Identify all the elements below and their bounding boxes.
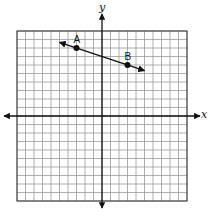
coordinate-plane — [0, 0, 210, 217]
point-b-label: B — [125, 52, 132, 62]
point-b — [125, 62, 131, 68]
x-axis-label: x — [201, 109, 207, 120]
point-a — [74, 45, 80, 51]
y-axis-label: y — [99, 2, 105, 13]
point-a-label: A — [74, 35, 81, 45]
